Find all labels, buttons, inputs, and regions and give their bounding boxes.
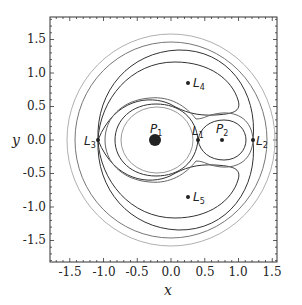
label-L4: L4 [193,76,205,92]
x-tick-label: -1.0 [92,265,115,279]
label-L1: L1 [192,124,204,140]
x-tick-label: -0.5 [125,265,148,279]
marker-P2 [220,138,224,142]
x-tick-label: -1.5 [58,265,81,279]
contour-tadpole-L5 [98,140,239,218]
marker-L4 [186,81,190,85]
x-tick-label: 1.5 [262,265,281,279]
contour-plot: P1 P2 L1 L2 L3 L4 L5 1.5 1.0 0.5 0.0 -0.… [0,0,302,305]
y-tick-label: 0.0 [27,133,46,147]
x-tick-label: 1.0 [228,265,247,279]
points [96,81,255,199]
y-axis-label: y [11,132,21,148]
label-P1: P1 [150,122,162,138]
y-tick-label: -1.0 [23,200,46,214]
y-tick-label: 0.5 [27,99,46,113]
x-tick-label: 0.5 [195,265,214,279]
x-tick-labels: -1.5 -1.0 -0.5 0.0 0.5 1.0 1.5 [58,265,281,279]
contour-L2-level [105,98,253,183]
marker-L5 [186,195,190,199]
x-axis-label: x [164,282,172,298]
y-tick-labels: 1.5 1.0 0.5 0.0 -0.5 -1.0 -1.5 [23,32,46,247]
label-L3: L3 [84,134,96,150]
y-tick-label: -1.5 [23,233,46,247]
label-P2: P2 [216,122,228,138]
marker-L3 [96,138,100,142]
label-L2: L2 [256,134,268,150]
y-tick-label: -0.5 [23,166,46,180]
x-tick-label: 0.0 [161,265,180,279]
contour-outer-2 [75,42,267,238]
marker-L2 [251,138,255,142]
label-L5: L5 [193,190,205,206]
point-labels: P1 P2 L1 L2 L3 L4 L5 [84,76,268,206]
y-tick-label: 1.0 [27,66,46,80]
y-tick-label: 1.5 [27,32,46,46]
